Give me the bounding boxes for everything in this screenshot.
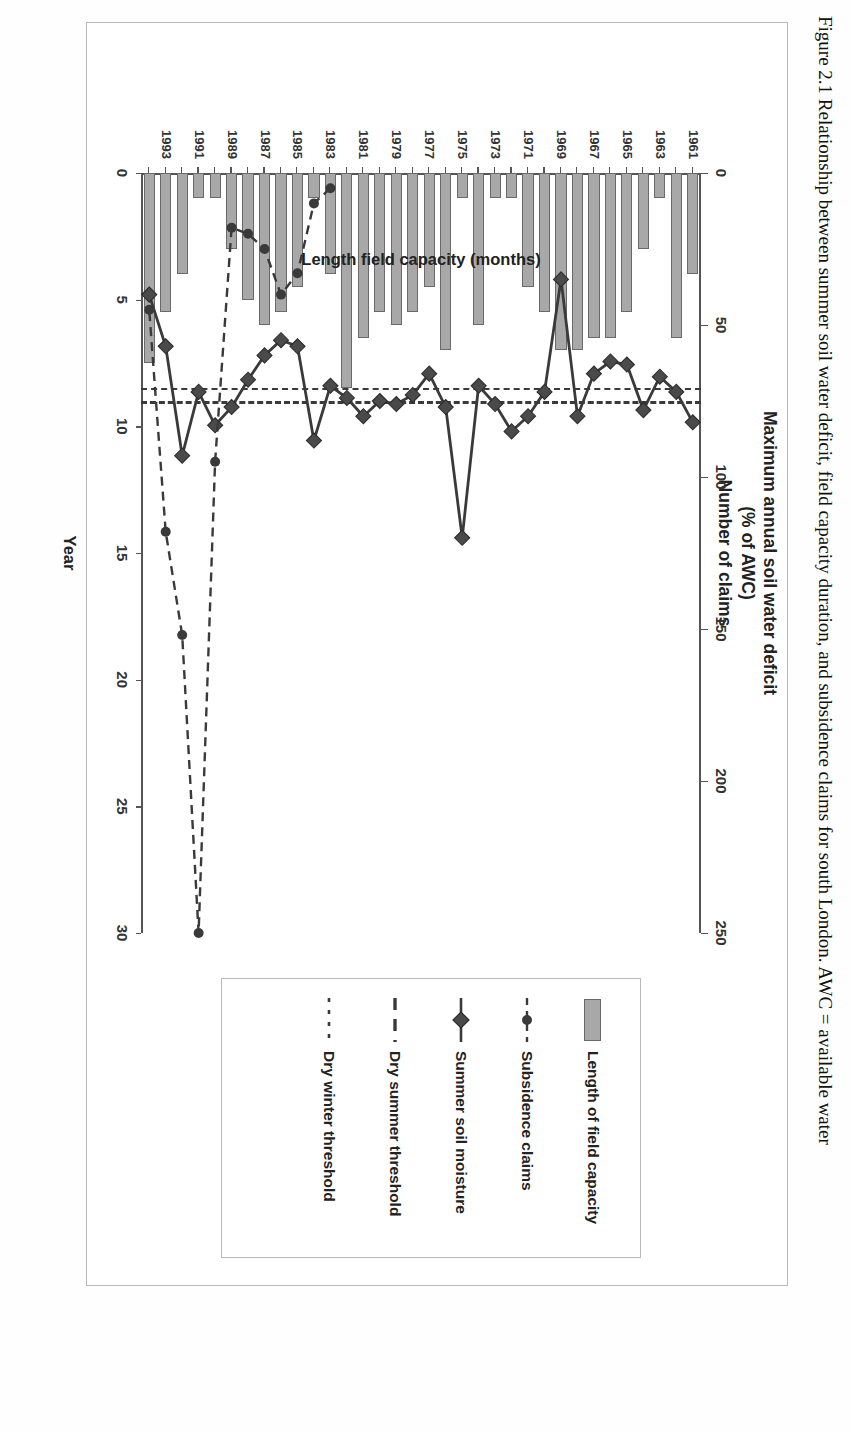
summer-soil-moisture-marker [158, 339, 173, 354]
top-axis-tick [701, 781, 708, 782]
rotated-figure-container: Maximum annual soil water deficit (% of … [46, 46, 806, 1386]
short-dashed-line-icon [296, 989, 362, 1051]
summer-soil-moisture-marker [553, 272, 568, 287]
bar-swatch-icon [560, 989, 626, 1051]
subsidence-claims-line [149, 188, 330, 933]
year-tick-label: 1985 [289, 130, 304, 159]
summer-soil-moisture-marker [635, 403, 650, 418]
year-tick-label: 1977 [421, 130, 436, 159]
bottom-axis-tick-label: 0 [114, 169, 131, 177]
subsidence-claims-marker [308, 198, 318, 208]
bottom-axis-tick [136, 553, 141, 554]
legend-label: Length of field capacity [583, 1051, 602, 1224]
year-tick-label: 1983 [322, 130, 337, 159]
bottom-axis-tick [136, 300, 141, 301]
year-tick-label: 1965 [619, 130, 634, 159]
bottom-axis-tick-label: 10 [114, 418, 131, 435]
summer-soil-moisture-marker [174, 448, 189, 463]
top-axis-tick-label: 150 [713, 616, 730, 641]
subsidence-claims-marker [276, 290, 286, 300]
top-axis-tick [701, 325, 708, 326]
chart-title: Maximum annual soil water deficit (% of … [713, 173, 780, 933]
year-tick-label: 1979 [388, 130, 403, 159]
bottom-axis-tick [136, 680, 141, 681]
top-axis-tick-label: 200 [713, 768, 730, 793]
legend-item-dry-winter-threshold: Dry winter threshold [296, 989, 362, 1247]
summer-soil-moisture-marker [289, 339, 304, 354]
legend-item-dry-summer-threshold: Dry summer threshold [362, 989, 428, 1247]
subsidence-claims-marker [210, 457, 220, 467]
legend-label: Dry summer threshold [385, 1051, 404, 1216]
figure-caption: Figure 2.1 Relationship between summer s… [803, 0, 847, 1432]
subsidence-claims-marker [144, 305, 154, 315]
plot-area: 2502001501005003025201510501961196319651… [141, 173, 701, 933]
top-axis-tick [701, 629, 708, 630]
bottom-axis-tick-label: 20 [114, 671, 131, 688]
bottom-axis-tick-label: 5 [114, 295, 131, 303]
year-tick-label: 1989 [224, 130, 239, 159]
subsidence-claims-marker [177, 630, 187, 640]
figure-border: Maximum annual soil water deficit (% of … [86, 22, 788, 1286]
year-tick-label: 1975 [454, 130, 469, 159]
legend-item-length-of-field-capacity: Length of field capacity [560, 989, 626, 1247]
subsidence-claims-marker [292, 268, 302, 278]
top-axis-tick [701, 477, 708, 478]
chart-title-line-1: Maximum annual soil water deficit [758, 173, 780, 933]
top-axis-tick-label: 250 [713, 920, 730, 945]
bottom-axis-tick [136, 426, 141, 427]
year-tick-label: 1987 [257, 130, 272, 159]
bottom-axis-tick-label: 15 [114, 545, 131, 562]
year-tick-label: 1967 [586, 130, 601, 159]
top-axis-tick-label: 100 [713, 464, 730, 489]
circle-marker-icon [494, 989, 560, 1051]
bottom-axis-tick-label: 25 [114, 798, 131, 815]
year-tick-label: 1963 [652, 130, 667, 159]
left-axis-label: Length field capacity (months) [241, 250, 601, 269]
subsidence-claims-marker [226, 223, 236, 233]
legend-label: Dry winter threshold [319, 1051, 338, 1202]
bottom-axis-tick [136, 173, 141, 174]
summer-soil-moisture-marker [306, 433, 321, 448]
subsidence-claims-marker [243, 229, 253, 239]
summer-soil-moisture-marker [537, 384, 552, 399]
chart-title-line-2: (% of AWC) [736, 173, 758, 933]
bottom-axis-tick [136, 933, 141, 934]
subsidence-claims-marker [160, 527, 170, 537]
diamond-marker-icon [428, 989, 494, 1051]
year-tick-label: 1969 [553, 130, 568, 159]
series-overlay [141, 173, 701, 933]
summer-soil-moisture-marker [438, 400, 453, 415]
summer-soil-moisture-marker [454, 530, 469, 545]
legend-item-subsidence-claims: Subsidence claims [494, 989, 560, 1247]
bottom-axis-tick [136, 806, 141, 807]
top-axis-tick [701, 933, 708, 934]
long-dashed-line-icon [362, 989, 428, 1051]
top-axis-tick-label: 0 [713, 169, 730, 177]
bottom-axis-tick-label: 30 [114, 925, 131, 942]
year-tick-label: 1973 [487, 130, 502, 159]
legend-label: Summer soil moisture [451, 1051, 470, 1214]
x-axis-label: Year [60, 173, 79, 933]
summer-soil-moisture-marker [619, 357, 634, 372]
year-tick-label: 1991 [191, 130, 206, 159]
summer-soil-moisture-marker [141, 287, 156, 302]
top-axis-tick [701, 173, 708, 174]
figure-caption-text: Figure 2.1 Relationship between summer s… [814, 16, 836, 1416]
legend-label: Subsidence claims [517, 1051, 536, 1191]
year-tick-label: 1961 [685, 130, 700, 159]
summer-soil-moisture-marker [388, 397, 403, 412]
subsidence-claims-marker [193, 928, 203, 938]
year-tick-label: 1971 [520, 130, 535, 159]
year-tick-label: 1981 [355, 130, 370, 159]
summer-soil-moisture-marker [191, 384, 206, 399]
summer-soil-moisture-marker [685, 415, 700, 430]
chart-title-line-3: Number of claims [713, 173, 735, 933]
summer-soil-moisture-marker [569, 409, 584, 424]
legend-item-summer-soil-moisture: Summer soil moisture [428, 989, 494, 1247]
top-axis-tick-label: 50 [713, 317, 730, 334]
scanned-page: Maximum annual soil water deficit (% of … [0, 0, 851, 1432]
year-tick-label: 1993 [158, 130, 173, 159]
legend: Length of field capacity Subsidence clai… [221, 978, 641, 1258]
